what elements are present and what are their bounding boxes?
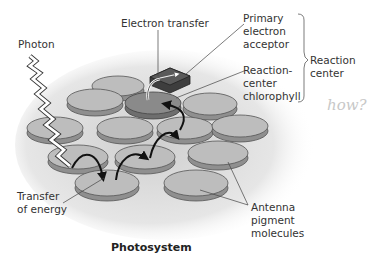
label-transfer-of-energy: Transfer of energy xyxy=(16,190,67,215)
antenna-disk xyxy=(67,89,123,116)
antenna-disk xyxy=(157,117,213,144)
antenna-disk xyxy=(97,117,153,144)
antenna-disk xyxy=(164,170,228,201)
handwritten-note: how? xyxy=(327,96,368,114)
photosystem-diagram: Photon Electron transfer Primary electro… xyxy=(0,0,379,261)
label-primary-electron-acceptor: Primary electron acceptor xyxy=(243,12,290,50)
antenna-disk xyxy=(188,141,248,170)
label-antenna-pigment-molecules: Antenna pigment molecules xyxy=(251,201,304,239)
diagram-title: Photosystem xyxy=(111,241,192,254)
label-electron-transfer: Electron transfer xyxy=(121,17,210,29)
antenna-disk xyxy=(75,170,139,201)
label-photon: Photon xyxy=(18,38,55,50)
label-reaction-center: Reaction center xyxy=(310,54,359,79)
label-reaction-center-chlorophyll: Reaction- center chlorophyll xyxy=(243,64,301,102)
antenna-disk xyxy=(212,115,268,142)
